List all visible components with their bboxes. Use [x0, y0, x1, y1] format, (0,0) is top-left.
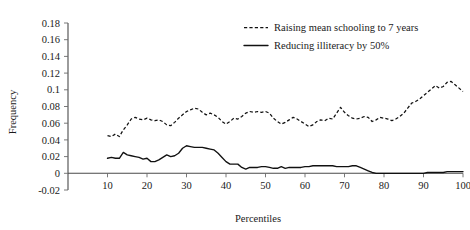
y-tick-label: 0	[55, 168, 60, 179]
x-axis-title: Percentiles	[235, 213, 281, 224]
x-tick-label: 100	[455, 180, 470, 191]
x-tick-label: 80	[379, 180, 390, 191]
y-tick-label: 0.02	[42, 151, 60, 162]
y-tick-label: 0.12	[42, 68, 60, 79]
legend: Raising mean schooling to 7 years Reduci…	[244, 22, 418, 51]
y-tick-label: 0.14	[42, 51, 61, 62]
x-axis-group: 102030405060708090100	[68, 173, 470, 191]
y-tick-label: 0.1	[47, 84, 60, 95]
legend-label-raising-mean-schooling: Raising mean schooling to 7 years	[274, 22, 418, 33]
x-tick-label: 60	[300, 180, 311, 191]
y-axis-group: -0.0200.020.040.060.080.10.120.140.160.1…	[38, 18, 68, 196]
x-tick-label: 50	[260, 180, 271, 191]
x-tick-label: 20	[142, 180, 153, 191]
x-tick-label: 70	[339, 180, 350, 191]
x-tick-label: 90	[418, 180, 429, 191]
y-axis-title: Frequency	[7, 89, 18, 134]
x-tick-label: 10	[102, 180, 113, 191]
plot-series-group	[108, 81, 464, 173]
y-tick-label: 0.08	[42, 101, 60, 112]
y-tick-label: 0.06	[42, 118, 60, 129]
x-tick-labels: 102030405060708090100	[102, 180, 470, 191]
y-tick-label: 0.18	[42, 18, 60, 29]
y-tick-label: 0.04	[42, 135, 61, 146]
series-line-raising-mean-schooling	[108, 81, 464, 136]
series-line-reducing-illiteracy	[108, 146, 464, 174]
y-tick-marks	[64, 23, 68, 190]
y-tick-labels: -0.0200.020.040.060.080.10.120.140.160.1…	[38, 18, 61, 196]
y-tick-label: 0.16	[42, 34, 60, 45]
chart-figure: -0.0200.020.040.060.080.10.120.140.160.1…	[0, 0, 470, 230]
x-tick-label: 40	[221, 180, 232, 191]
legend-label-reducing-illiteracy: Reducing illiteracy by 50%	[274, 40, 389, 51]
x-tick-label: 30	[181, 180, 192, 191]
y-tick-label: -0.02	[38, 185, 60, 196]
chart-svg: -0.0200.020.040.060.080.10.120.140.160.1…	[0, 0, 470, 230]
